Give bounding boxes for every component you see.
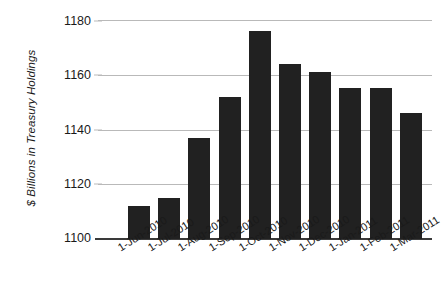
bar xyxy=(249,31,271,239)
y-tick-label-1100: 1100 xyxy=(31,232,91,245)
plot-area xyxy=(98,20,432,239)
treasury-holdings-bar-chart: $ Billions in Treasury Holdings 1180 116… xyxy=(0,0,447,301)
y-tick-label-1140: 1140 xyxy=(31,124,91,137)
gridline-1180 xyxy=(98,20,432,21)
y-tick-label-1180: 1180 xyxy=(31,15,91,28)
y-tick-label-1160: 1160 xyxy=(31,69,91,82)
bar xyxy=(279,64,301,239)
y-tick-label-1120: 1120 xyxy=(31,178,91,191)
